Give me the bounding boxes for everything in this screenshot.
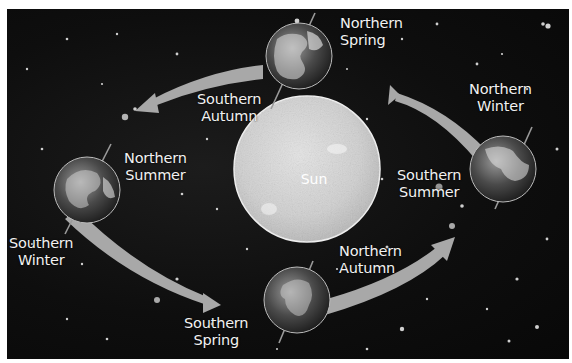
seasons-diagram: Sun Northern Spring Southern Autumn Nort…: [7, 9, 569, 359]
sun-label: Sun: [294, 171, 334, 187]
label-southern-summer: Southern Summer: [397, 167, 461, 201]
label-southern-autumn: Southern Autumn: [197, 91, 261, 125]
label-northern-spring: Northern Spring: [340, 15, 403, 49]
earth-top: [266, 13, 332, 109]
label-northern-autumn: Northern Autumn: [339, 243, 402, 277]
earth-left: [54, 144, 120, 234]
label-northern-winter: Northern Winter: [469, 81, 532, 115]
label-southern-winter: Southern Winter: [9, 235, 73, 269]
diagram-graphics: [7, 9, 569, 359]
earth-right: [470, 127, 536, 209]
earth-bottom: [264, 261, 330, 343]
label-southern-spring: Southern Spring: [184, 315, 248, 349]
label-northern-summer: Northern Summer: [124, 150, 187, 184]
